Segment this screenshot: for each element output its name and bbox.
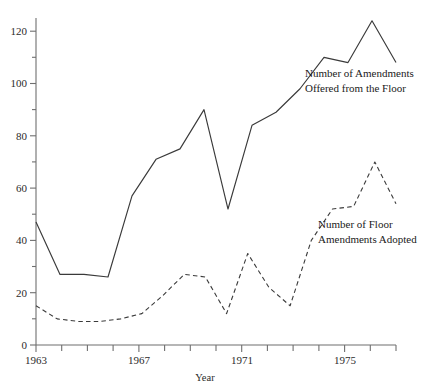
x-tick-label-1967: 1967: [128, 354, 151, 366]
x-axis-title: Year: [195, 372, 215, 383]
y-tick-label-100: 100: [11, 77, 28, 89]
line-chart-figure: 0 20 40 60 80 100 120 1963 1967 1971: [0, 0, 430, 391]
y-tick-label-120: 120: [11, 25, 28, 37]
x-tick-label-1963: 1963: [25, 354, 48, 366]
y-tick-label-80: 80: [16, 130, 28, 142]
annotation-solid-line-1: Number of Amendments: [305, 67, 414, 79]
y-axis-ticks: [30, 31, 36, 345]
annotation-solid-line-2: Offered from the Floor: [305, 82, 406, 94]
x-tick-label-1975: 1975: [334, 354, 357, 366]
y-tick-label-40: 40: [16, 234, 28, 246]
annotation-dashed-line-1: Number of Floor: [318, 218, 393, 230]
y-tick-label-20: 20: [16, 287, 28, 299]
x-axis-ticks: [36, 345, 396, 352]
x-tick-label-1971: 1971: [231, 354, 253, 366]
y-tick-label-60: 60: [16, 182, 28, 194]
y-tick-label-0: 0: [22, 339, 28, 351]
annotation-dashed-line-2: Amendments Adopted: [318, 233, 417, 245]
plot-area: 0 20 40 60 80 100 120 1963 1967 1971: [0, 0, 430, 391]
